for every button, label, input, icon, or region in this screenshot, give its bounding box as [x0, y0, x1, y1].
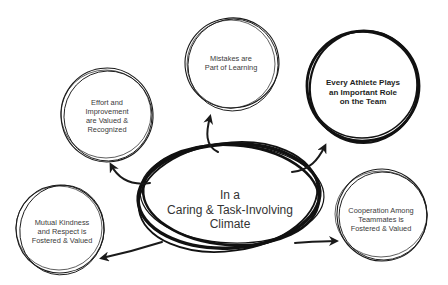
- node-label-mistakes: Mistakes are Part of Learning: [205, 55, 258, 73]
- node-label-kindness: Mutual Kindness and Respect is Fostered …: [32, 219, 93, 246]
- center-label: In a Caring & Task-Involving Climate: [167, 188, 293, 232]
- node-label-effort: Effort and Improvement are Valued & Reco…: [85, 99, 128, 135]
- arrow-to-kindness: [102, 242, 162, 258]
- node-label-every-athlete: Every Athlete Plays an Important Role on…: [326, 78, 400, 107]
- node-label-cooperation: Cooperation Among Teammates is Fostered …: [348, 207, 413, 234]
- arrow-to-cooperation: [295, 241, 336, 243]
